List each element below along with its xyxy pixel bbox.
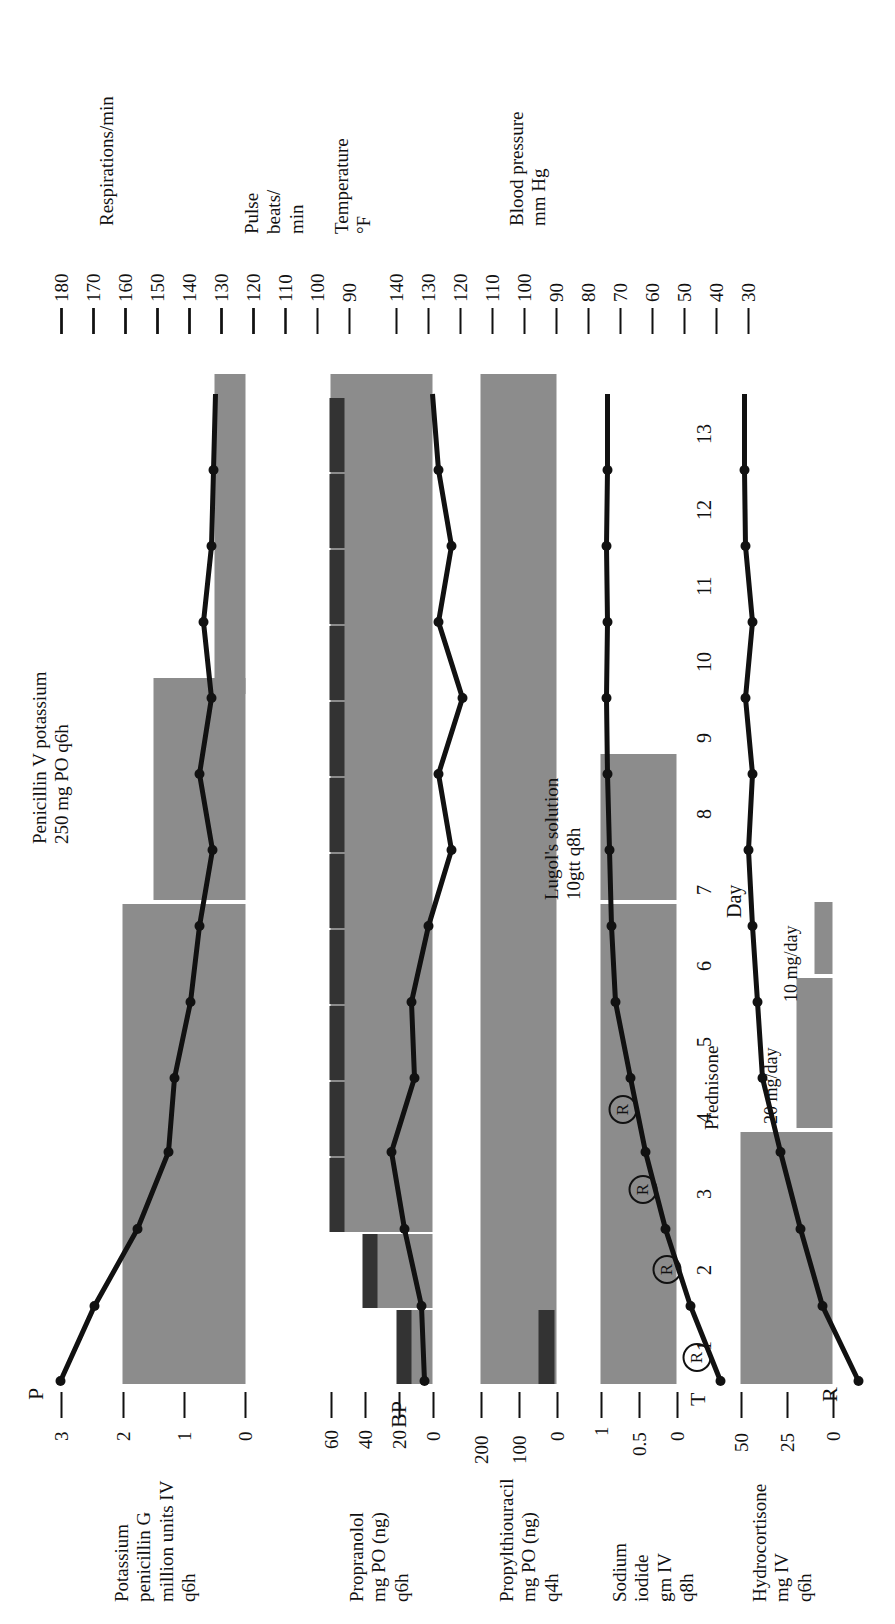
scale-hydrocortisone-25: 25 bbox=[776, 1433, 798, 1452]
day-label-10: 10 bbox=[692, 647, 715, 677]
tick-hydrocortisone-25 bbox=[786, 1392, 788, 1418]
scale-sodium-iodide-1: 1 bbox=[590, 1427, 612, 1437]
axis-title-pulse: Pulse beats/ min bbox=[240, 190, 307, 234]
scale-propranolol-0: 0 bbox=[422, 1432, 444, 1442]
tick-propranolol-20 bbox=[398, 1392, 400, 1418]
bar-potassium-penicillin-g-1 bbox=[122, 904, 245, 1384]
scale-propylthiouracil-100: 100 bbox=[508, 1436, 530, 1465]
scale-potassium-1: 1 bbox=[173, 1432, 195, 1442]
bar-hydrocortisone bbox=[740, 1132, 832, 1384]
tick-sodium-iodide-05 bbox=[638, 1392, 640, 1418]
scale-propranolol-40: 40 bbox=[354, 1430, 376, 1449]
tick-potassium-0 bbox=[244, 1392, 246, 1418]
bar-penicillin-v-potassium bbox=[214, 374, 245, 694]
day-label-5: 5 bbox=[692, 1027, 715, 1057]
tick-resp-10 bbox=[252, 308, 254, 334]
scale-potassium-3: 3 bbox=[50, 1432, 72, 1442]
scale-bp-110: 110 bbox=[481, 274, 503, 302]
scale-pulse-100: 100 bbox=[306, 274, 328, 303]
tick-propranolol-60 bbox=[330, 1392, 332, 1418]
scale-pulse-150: 150 bbox=[146, 274, 168, 303]
bar-propranolol-dose-day5 bbox=[329, 1006, 344, 1080]
scale-bp-120: 120 bbox=[449, 274, 471, 303]
bar-propranolol-dose-day13 bbox=[329, 398, 344, 472]
x-axis-label-day: Day bbox=[722, 885, 745, 918]
rmark-4: R bbox=[608, 1095, 637, 1124]
tick-resp-15 bbox=[220, 308, 222, 334]
bar-sodium-iodide bbox=[600, 904, 676, 1384]
tick-pulse-100 bbox=[316, 308, 318, 334]
rmark-2: R bbox=[652, 1255, 681, 1284]
tick-temp-98 bbox=[284, 308, 286, 334]
overlay-label-penicillin-v-potassium: Penicillin V potassium 250 mg PO q6h bbox=[28, 672, 73, 844]
day-label-7: 7 bbox=[692, 875, 715, 905]
bar-propranolol-dose-day9 bbox=[329, 702, 344, 776]
pulse-marker-label: P bbox=[22, 1388, 48, 1400]
tick-propylthiouracil-0 bbox=[556, 1392, 558, 1418]
tick-pulse-90 bbox=[348, 308, 350, 334]
scale-pulse-140: 140 bbox=[178, 274, 200, 303]
axis-title-blood-pressure: Blood pressure mm Hg bbox=[505, 111, 550, 226]
bar-propranolol-dose-day4 bbox=[329, 1082, 344, 1156]
day-label-13: 13 bbox=[692, 419, 715, 449]
scale-hydrocortisone-0: 0 bbox=[822, 1432, 844, 1442]
scale-bp-90: 90 bbox=[545, 283, 567, 302]
day-label-1: 1 bbox=[692, 1331, 715, 1361]
tick-bp-80 bbox=[587, 308, 589, 334]
scale-bp-60: 60 bbox=[641, 283, 663, 302]
bar-propylthiouracil-dose-day1 bbox=[538, 1310, 554, 1384]
scale-bp-80: 80 bbox=[577, 283, 599, 302]
scale-sodium-iodide-05: 0.5 bbox=[628, 1432, 650, 1456]
scale-bp-50: 50 bbox=[673, 283, 695, 302]
scale-propylthiouracil-200: 200 bbox=[470, 1436, 492, 1465]
scale-propranolol-20: 20 bbox=[388, 1430, 410, 1449]
scale-bp-70: 70 bbox=[609, 283, 631, 302]
bar-propranolol-rest bbox=[330, 374, 432, 1232]
bar-propranolol-dose-day10 bbox=[329, 626, 344, 700]
scale-propranolol-60: 60 bbox=[320, 1430, 342, 1449]
axis-title-respirations: Respirations/min bbox=[95, 96, 117, 226]
scale-bp-130: 130 bbox=[417, 274, 439, 303]
bar-propranolol-dose-day11 bbox=[329, 550, 344, 624]
bar-prednisone-10mg bbox=[814, 902, 832, 974]
scale-hydrocortisone-50: 50 bbox=[730, 1433, 752, 1452]
scale-pulse-160: 160 bbox=[114, 274, 136, 303]
drug-label-propranolol: Propranolol mg PO (ng) q6h bbox=[345, 1512, 412, 1602]
scale-bp-140: 140 bbox=[385, 274, 407, 303]
tick-resp-35 bbox=[92, 308, 94, 334]
drug-label-potassium-penicillin-g: Potassium penicillin G million units IV … bbox=[110, 1481, 200, 1602]
tick-potassium-2 bbox=[122, 1392, 124, 1418]
scale-pulse-90: 90 bbox=[338, 283, 360, 302]
tick-resp-20 bbox=[188, 308, 190, 334]
figure-page: P 3 2 1 0 Potassium penicillin G million… bbox=[0, 0, 895, 1624]
respirations-marker-label: R bbox=[816, 1387, 842, 1402]
tick-hydrocortisone-50 bbox=[740, 1392, 742, 1418]
day-label-4: 4 bbox=[692, 1103, 715, 1133]
tick-bp-120 bbox=[459, 308, 461, 334]
tick-bp-110 bbox=[491, 308, 493, 334]
scale-bp-30: 30 bbox=[737, 283, 759, 302]
tick-bp-70 bbox=[619, 308, 621, 334]
prednisone-dose-10: 10 mg/day bbox=[780, 926, 801, 1003]
scale-potassium-2: 2 bbox=[112, 1432, 134, 1442]
tick-bp-60 bbox=[651, 308, 653, 334]
scale-pulse-110: 110 bbox=[274, 274, 296, 302]
scale-sodium-iodide-0: 0 bbox=[666, 1432, 688, 1442]
scale-pulse-130: 130 bbox=[210, 274, 232, 303]
tick-bp-50 bbox=[683, 308, 685, 334]
tick-propylthiouracil-200 bbox=[480, 1392, 482, 1418]
drug-label-sodium-iodide: Sodium iodide gm IV q8h bbox=[608, 1543, 698, 1602]
day-label-8: 8 bbox=[692, 799, 715, 829]
clinical-flowsheet-chart: P 3 2 1 0 Potassium penicillin G million… bbox=[0, 0, 895, 1624]
bar-propranolol-dose-day1 bbox=[396, 1310, 411, 1384]
bar-lugols-solution bbox=[600, 754, 676, 900]
tick-bp-90 bbox=[555, 308, 557, 334]
scale-bp-40: 40 bbox=[705, 283, 727, 302]
scale-pulse-180: 180 bbox=[50, 274, 72, 303]
day-label-3: 3 bbox=[692, 1179, 715, 1209]
bar-propranolol-dose-day2 bbox=[362, 1234, 377, 1308]
scale-pulse-120: 120 bbox=[242, 274, 264, 303]
scale-propylthiouracil-0: 0 bbox=[546, 1432, 568, 1442]
rmark-3: R bbox=[628, 1175, 657, 1204]
bar-propranolol-dose-day7 bbox=[329, 854, 344, 928]
